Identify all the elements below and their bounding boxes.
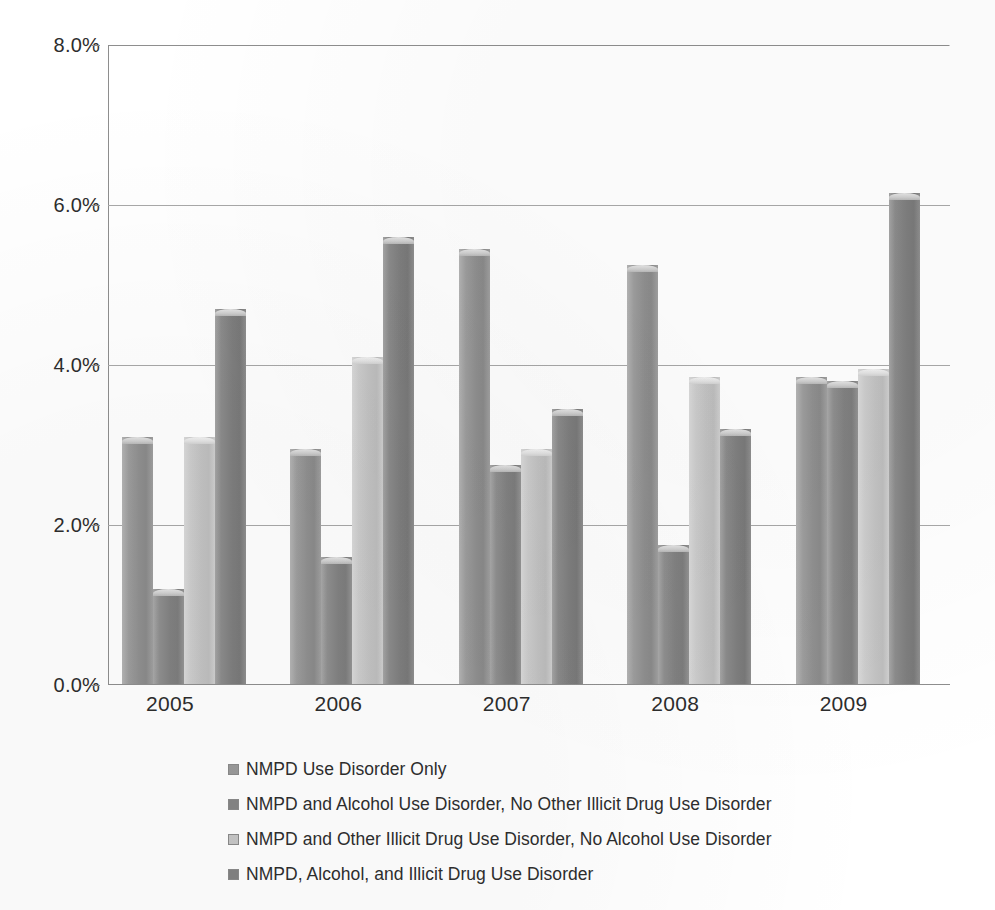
legend-item: NMPD, Alcohol, and Illicit Drug Use Diso… (228, 857, 968, 892)
bar-body (720, 429, 751, 685)
legend-item: NMPD and Other Illicit Drug Use Disorder… (228, 822, 968, 857)
bar-body (352, 357, 383, 685)
bar-cap (215, 309, 246, 316)
bar-body (858, 369, 889, 685)
bar-body (689, 377, 720, 685)
bar (184, 437, 215, 685)
bar-cap (658, 545, 689, 552)
bar (627, 265, 658, 685)
bar-group-2008 (613, 45, 781, 685)
bar (521, 449, 552, 685)
bar-body (184, 437, 215, 685)
x-axis-label-2009: 2009 (782, 692, 950, 726)
bar (153, 589, 184, 685)
x-axis-label-2005: 2005 (108, 692, 276, 726)
y-axis-tick-mark (91, 45, 100, 46)
bar-chart-figure: 8.0% 6.0% 4.0% 2.0% 0.0% 2005 2006 2007 … (0, 0, 995, 910)
bar-body (796, 377, 827, 685)
bar-cap (490, 465, 521, 472)
bar (215, 309, 246, 685)
y-axis-tick-mark (91, 365, 100, 366)
bar (290, 449, 321, 685)
y-axis: 8.0% 6.0% 4.0% 2.0% 0.0% (0, 45, 100, 685)
bar-cap (889, 193, 920, 200)
bar-body (215, 309, 246, 685)
bar-cap (689, 377, 720, 384)
legend-item-label: NMPD, Alcohol, and Illicit Drug Use Diso… (246, 864, 593, 885)
bar (796, 377, 827, 685)
bar-body (383, 237, 414, 685)
legend-item: NMPD and Alcohol Use Disorder, No Other … (228, 787, 968, 822)
legend-swatch-icon (228, 799, 239, 810)
bar (889, 193, 920, 685)
bar-cap (459, 249, 490, 256)
bar (720, 429, 751, 685)
bar-body (827, 381, 858, 685)
bar (383, 237, 414, 685)
legend-swatch-icon (228, 834, 239, 845)
bar-cap (720, 429, 751, 436)
bar (321, 557, 352, 685)
x-axis-label-2008: 2008 (613, 692, 781, 726)
bar (352, 357, 383, 685)
bar-cap (521, 449, 552, 456)
y-axis-tick-label: 6.0% (14, 194, 100, 217)
legend-item-label: NMPD and Other Illicit Drug Use Disorder… (246, 829, 772, 850)
bar-body (889, 193, 920, 685)
bar (858, 369, 889, 685)
x-axis-label-2006: 2006 (276, 692, 444, 726)
bar-body (521, 449, 552, 685)
bar-cap (858, 369, 889, 376)
legend-swatch-icon (228, 869, 239, 880)
y-axis-tick-mark (91, 685, 100, 686)
y-axis-tick-label: 2.0% (14, 514, 100, 537)
y-axis-tick-label: 8.0% (14, 34, 100, 57)
x-axis-label-2007: 2007 (445, 692, 613, 726)
bar-cap (321, 557, 352, 564)
y-axis-tick-label: 0.0% (14, 674, 100, 697)
bar-cap (352, 357, 383, 364)
chart-legend: NMPD Use Disorder Only NMPD and Alcohol … (228, 752, 968, 892)
plot-area (108, 45, 950, 685)
bar-group-2006 (276, 45, 444, 685)
legend-item: NMPD Use Disorder Only (228, 752, 968, 787)
bar-cap (184, 437, 215, 444)
bar (827, 381, 858, 685)
bar-body (658, 545, 689, 685)
bar-body (627, 265, 658, 685)
bar-body (321, 557, 352, 685)
bar (459, 249, 490, 685)
bar (658, 545, 689, 685)
bar-groups (108, 45, 950, 685)
bar-body (290, 449, 321, 685)
y-axis-tick-mark (91, 205, 100, 206)
bar (122, 437, 153, 685)
bar-cap (383, 237, 414, 244)
bar-cap (627, 265, 658, 272)
bar (552, 409, 583, 685)
x-axis-baseline (108, 684, 950, 685)
legend-swatch-icon (228, 764, 239, 775)
bar-cap (552, 409, 583, 416)
bar-cap (827, 381, 858, 388)
bar (490, 465, 521, 685)
bar-body (459, 249, 490, 685)
legend-item-label: NMPD Use Disorder Only (246, 759, 446, 780)
legend-item-label: NMPD and Alcohol Use Disorder, No Other … (246, 794, 772, 815)
bar-group-2007 (445, 45, 613, 685)
bar-cap (153, 589, 184, 596)
bar-group-2005 (108, 45, 276, 685)
bar-body (490, 465, 521, 685)
x-axis-labels: 2005 2006 2007 2008 2009 (108, 692, 950, 726)
bar-body (122, 437, 153, 685)
bar-group-2009 (782, 45, 950, 685)
bar-body (552, 409, 583, 685)
bar-cap (122, 437, 153, 444)
bar-cap (290, 449, 321, 456)
bar-body (153, 589, 184, 685)
y-axis-tick-label: 4.0% (14, 354, 100, 377)
bar-cap (796, 377, 827, 384)
y-axis-tick-mark (91, 525, 100, 526)
bar (689, 377, 720, 685)
